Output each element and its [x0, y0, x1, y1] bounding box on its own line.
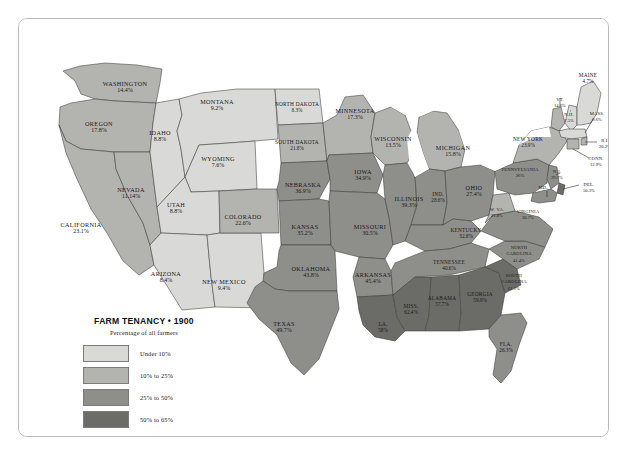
state-sd[interactable] [278, 123, 327, 163]
state-ma[interactable] [559, 129, 587, 139]
legend-row: 10% to 25% [83, 367, 235, 384]
state-or[interactable] [59, 99, 156, 152]
legend-swatch [83, 367, 129, 384]
legend-row: Under 10% [83, 345, 235, 362]
legend-subtitle: Percentage of all farmers [53, 329, 235, 336]
legend-label: 10% to 25% [140, 372, 173, 379]
map-legend: FARM TENANCY • 1900 Percentage of all fa… [53, 316, 235, 433]
legend-row: 25% to 50% [83, 389, 235, 406]
state-ct[interactable] [567, 139, 579, 149]
state-ks[interactable] [279, 199, 331, 245]
legend-swatch [83, 411, 129, 428]
legend-title: FARM TENANCY • 1900 [53, 316, 235, 326]
legend-label: 25% to 50% [140, 394, 173, 401]
map-frame: WASHINGTON14.4%OREGON17.8%CALIFORNIA23.1… [18, 18, 609, 437]
legend-swatch [83, 345, 129, 362]
state-in[interactable] [411, 169, 447, 225]
state-ar[interactable] [353, 257, 393, 297]
legend-label: 50% to 65% [140, 416, 173, 423]
state-al[interactable] [425, 275, 461, 331]
state-mo[interactable] [329, 191, 393, 259]
state-co[interactable] [219, 189, 279, 233]
state-nd[interactable] [275, 89, 323, 125]
state-ia[interactable] [327, 153, 383, 193]
legend-row: 50% to 65% [83, 411, 235, 428]
legend-label: Under 10% [140, 350, 171, 357]
legend-swatch [83, 389, 129, 406]
legend-rows: Under 10%10% to 25%25% to 50%50% to 65% [53, 345, 235, 428]
